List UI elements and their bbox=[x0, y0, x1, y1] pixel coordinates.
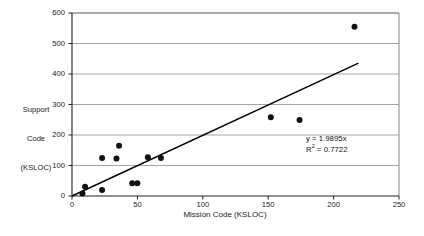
x-tick-label: 250 bbox=[386, 200, 412, 209]
x-tick-label: 100 bbox=[190, 200, 216, 209]
r-squared-line: R2 = 0.7722 bbox=[306, 145, 348, 156]
data-point bbox=[82, 184, 88, 190]
regression-annotation: y = 1.9895x R2 = 0.7722 bbox=[306, 134, 348, 155]
data-point bbox=[134, 180, 140, 186]
y-tick-label: 100 bbox=[39, 161, 65, 170]
data-point bbox=[158, 155, 164, 161]
data-point bbox=[129, 180, 135, 186]
data-point bbox=[113, 155, 119, 161]
x-tick-label: 0 bbox=[59, 200, 85, 209]
data-point bbox=[268, 114, 274, 120]
trendline-path bbox=[72, 63, 358, 196]
data-point bbox=[79, 191, 85, 197]
y-tick-label: 300 bbox=[39, 100, 65, 109]
data-point bbox=[352, 24, 358, 30]
y-tick-label: 500 bbox=[39, 39, 65, 48]
data-point bbox=[116, 143, 122, 149]
r-squared-value: = 0.7722 bbox=[315, 145, 348, 154]
chart-figure: Support Code (KSLOC) Mission Code (KSLOC… bbox=[0, 0, 424, 236]
x-tick-label: 50 bbox=[124, 200, 150, 209]
data-point bbox=[297, 117, 303, 123]
x-axis-title: Mission Code (KSLOC) bbox=[130, 210, 320, 220]
y-tick-label: 400 bbox=[39, 69, 65, 78]
data-points-group bbox=[79, 24, 357, 197]
data-point bbox=[99, 155, 105, 161]
gridlines-group bbox=[72, 13, 399, 166]
tick-marks-group bbox=[69, 13, 400, 200]
data-point bbox=[145, 154, 151, 160]
x-tick-label: 200 bbox=[321, 200, 347, 209]
x-tick-label: 150 bbox=[255, 200, 281, 209]
y-tick-label: 200 bbox=[39, 130, 65, 139]
y-tick-label: 600 bbox=[39, 8, 65, 17]
y-tick-label: 0 bbox=[39, 191, 65, 200]
data-point bbox=[99, 187, 105, 193]
trendline bbox=[72, 63, 358, 196]
